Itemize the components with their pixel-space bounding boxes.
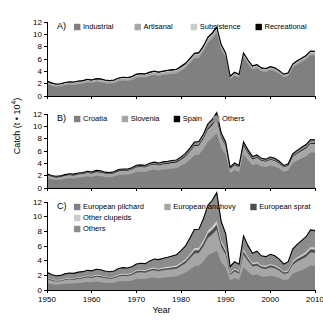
y-tick-label: 0: [38, 286, 43, 295]
x-tick-label: 1980: [172, 295, 190, 304]
panel-b: 024681012B)CroatiaSloveniaSpainOthers: [0, 98, 323, 194]
panel-a: 024681012A)IndustrialArtisanalSubsistenc…: [0, 0, 323, 104]
y-tick-label: 10: [33, 30, 42, 39]
panel-c: 0246810121950196019701980199020002010C)E…: [0, 190, 323, 302]
legend-label: European anchovy: [173, 202, 236, 211]
figure-stacked-area-catch: Catch (t • 104) Year 024681012A)Industri…: [0, 0, 323, 326]
legend-swatch: [250, 204, 256, 210]
x-axis-title-text: Year: [152, 305, 170, 315]
y-tick-label: 12: [33, 198, 42, 207]
legend-swatch: [74, 226, 80, 232]
legend-label: Others: [83, 224, 106, 233]
legend-swatch: [122, 116, 128, 122]
legend-swatch: [174, 116, 180, 122]
y-tick-label: 6: [38, 55, 43, 64]
y-tick-label: 2: [38, 271, 43, 280]
legend-swatch: [74, 215, 80, 221]
y-tick-label: 4: [38, 256, 43, 265]
legend-label: Recreational: [265, 22, 307, 31]
x-axis-title: Year: [0, 305, 323, 315]
y-tick-label: 2: [38, 171, 43, 180]
legend-swatch: [213, 116, 219, 122]
panel-letter-b: B): [57, 113, 66, 123]
legend-label: European pilchard: [83, 202, 144, 211]
legend-label: Subsistence: [200, 22, 241, 31]
y-tick-label: 6: [38, 147, 43, 156]
legend-label: Others: [222, 114, 245, 123]
legend-label: Croatia: [83, 114, 108, 123]
y-tick-label: 12: [33, 110, 42, 119]
panel-letter-a: A): [57, 21, 66, 31]
y-tick-label: 8: [38, 134, 43, 143]
panel-a-plot: 024681012A)IndustrialArtisanalSubsistenc…: [0, 0, 323, 104]
y-tick-label: 8: [38, 227, 43, 236]
y-tick-label: 4: [38, 67, 43, 76]
y-tick-label: 12: [33, 18, 42, 27]
panel-b-plot: 024681012B)CroatiaSloveniaSpainOthers: [0, 98, 323, 194]
legend-swatch: [256, 24, 262, 30]
panel-letter-c: C): [57, 201, 67, 211]
x-tick-label: 2000: [261, 295, 279, 304]
legend-label: Industrial: [83, 22, 114, 31]
legend-swatch: [164, 204, 170, 210]
legend-swatch: [74, 204, 80, 210]
legend-swatch: [74, 116, 80, 122]
legend-label: Slovenia: [131, 114, 161, 123]
y-tick-label: 10: [33, 122, 42, 131]
legend-label: Other clupeids: [83, 213, 132, 222]
y-tick-label: 8: [38, 42, 43, 51]
legend-swatch: [74, 24, 80, 30]
legend-label: Spain: [183, 114, 202, 123]
y-tick-label: 4: [38, 159, 43, 168]
x-tick-label: 1960: [83, 295, 101, 304]
legend-swatch: [135, 24, 141, 30]
legend-swatch: [191, 24, 197, 30]
x-tick-label: 1990: [217, 295, 235, 304]
y-tick-label: 10: [33, 212, 42, 221]
x-tick-label: 1970: [127, 295, 145, 304]
legend-label: Artisanal: [144, 22, 174, 31]
y-tick-label: 2: [38, 79, 43, 88]
y-tick-label: 6: [38, 242, 43, 251]
x-tick-label: 1950: [38, 295, 56, 304]
panel-c-plot: 0246810121950196019701980199020002010C)E…: [0, 190, 323, 302]
legend-label: European sprat: [259, 202, 311, 211]
x-tick-label: 2010: [306, 295, 323, 304]
